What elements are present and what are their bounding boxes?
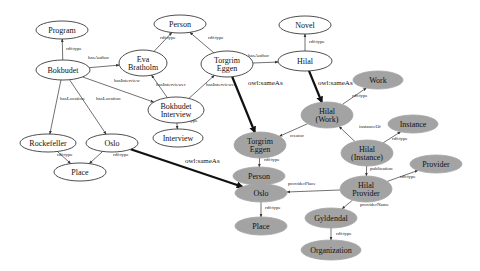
node-label: Person — [248, 172, 270, 181]
edge-label: rdf:type — [208, 35, 225, 40]
node-hilal1: Hilal — [278, 51, 332, 71]
node-oslo1: Oslo — [86, 134, 138, 152]
edge-label: providerName — [360, 202, 390, 207]
edge-arrow — [339, 127, 355, 142]
node-organization: Organization — [301, 240, 361, 260]
edge-torgrim2-person2: rdf:type — [259, 157, 280, 167]
edge-label: hasInterviewer — [156, 82, 186, 87]
edge-label: rdf:type — [352, 93, 369, 98]
edge-label: owl:sameAs — [185, 157, 220, 165]
edge-label: rdf:type — [336, 231, 353, 236]
edge-label: rdf:type — [400, 174, 417, 179]
edge-label: rdf:type — [265, 205, 282, 210]
edge-label: hasAuthor — [88, 55, 109, 60]
node-torgrim1: TorgrimEggen — [201, 51, 253, 77]
node-label: Novel — [295, 21, 315, 30]
edge-eva-person1: rdf:type — [154, 33, 177, 52]
edge-arrow — [253, 62, 278, 63]
edge-arrow — [89, 65, 119, 68]
node-place1: Place — [54, 163, 106, 181]
node-label: Bokbudet — [47, 66, 79, 75]
edge-label: rdf:type — [392, 136, 409, 141]
edge-bokbudet-rockefeller: hasLocation — [50, 80, 85, 134]
edge-arrow — [70, 80, 107, 135]
edge-oslo1-place1: rdf:type — [89, 151, 129, 163]
node-label: Work — [369, 76, 387, 85]
edge-hilalwork-work: rdf:type — [342, 88, 368, 105]
node-label: Gyldendal — [314, 214, 348, 223]
node-label: Person — [169, 20, 191, 29]
edge-oslo2-place2: rdf:type — [261, 202, 282, 217]
node-interview: Interview — [153, 129, 203, 147]
edge-hilalprov-provider: rdf:type — [387, 170, 418, 181]
node-label: Interview — [163, 134, 194, 143]
node-label: Rockefeller — [29, 139, 67, 148]
edge-label: rdf:type — [66, 46, 83, 51]
rdf-graph-diagram: rdf:typehasAuthorhasInterviewhasLocation… — [0, 0, 480, 271]
edge-label: owl:sameAs — [318, 79, 353, 87]
edge-label: providerPlace — [288, 181, 317, 186]
node-rockefeller: Rockefeller — [20, 134, 76, 152]
node-person1: Person — [154, 15, 206, 33]
edge-label: hasInterview — [114, 78, 140, 83]
edge-bokint-torgrim1: hasInterviewee — [189, 75, 237, 98]
node-eva: EvaBratholm — [119, 50, 167, 76]
edge-hilal1-hilalwork: owl:sameAs — [309, 71, 353, 102]
edge-label: rdf:type — [57, 152, 74, 157]
node-label: Provider — [352, 189, 380, 198]
node-label: (Work) — [316, 115, 339, 124]
edge-label: rdf:type — [309, 39, 326, 44]
node-bokbudet: Bokbudet — [36, 60, 90, 80]
edge-arrow — [131, 149, 243, 186]
node-label: Instance — [400, 120, 427, 129]
node-label: Program — [48, 26, 76, 35]
edge-arrow — [287, 190, 340, 192]
edge-hilalprov-oslo2: providerPlace — [287, 181, 340, 192]
node-label: Interview — [161, 110, 192, 119]
node-hilalinst: Hilal(Instance) — [341, 140, 393, 166]
edge-label: rdf:type — [113, 152, 130, 157]
edge-hilalinst-hilalwork: instanceOf — [339, 124, 381, 141]
node-instance: Instance — [388, 115, 438, 133]
edge-label: publication — [370, 166, 393, 171]
node-hilalprov: HilalProvider — [340, 176, 392, 202]
edge-arrow — [89, 151, 102, 163]
node-place2: Place — [235, 217, 287, 235]
node-label: Place — [71, 168, 89, 177]
node-novel: Novel — [279, 16, 331, 34]
edge-hilal1-novel: rdf:type — [305, 34, 326, 51]
edge-bokbudet-eva: hasAuthor — [88, 55, 119, 68]
node-work: Work — [353, 71, 403, 89]
node-label: (Instance) — [351, 153, 383, 162]
edge-gyldendal-organization: rdf:type — [331, 228, 353, 240]
edge-label: owl:sameAs — [248, 79, 283, 87]
node-label: Place — [252, 222, 270, 231]
node-program: Program — [36, 21, 88, 39]
edge-hilalinst-instance: rdf:type — [383, 132, 408, 143]
edge-label: hasInterviewee — [206, 82, 237, 87]
edge-label: rdf:type — [160, 35, 177, 40]
edge-arrow — [62, 39, 63, 60]
edge-rockefeller-place1: rdf:type — [57, 151, 74, 163]
edge-torgrim1-person1: rdf:type — [190, 32, 225, 52]
node-label: Eggen — [250, 145, 270, 154]
node-label: Organization — [310, 246, 352, 255]
node-provider: Provider — [410, 155, 462, 173]
node-label: Oslo — [104, 139, 119, 148]
edge-arrow — [50, 80, 61, 134]
node-label: Oslo — [253, 189, 268, 198]
edge-bokbudet-program: rdf:type — [62, 39, 82, 60]
node-label: Bratholm — [128, 63, 159, 72]
node-oslo2: Oslo — [235, 184, 287, 202]
edge-hilalinst-hilalprov: publication — [366, 166, 393, 176]
edge-hilalwork-torgrim2: creator — [279, 124, 307, 138]
node-person2: Person — [233, 167, 285, 185]
edge-arrow — [342, 200, 353, 209]
edge-label: hasAuthor — [248, 53, 269, 58]
node-hilalwork: Hilal(Work) — [301, 102, 353, 128]
edge-oslo1-oslo2: owl:sameAs — [131, 149, 243, 186]
node-gyldendal: Gyldendal — [305, 208, 357, 228]
node-label: Provider — [422, 160, 450, 169]
node-label: Eggen — [217, 64, 237, 73]
node-label: Hilal — [297, 57, 314, 66]
